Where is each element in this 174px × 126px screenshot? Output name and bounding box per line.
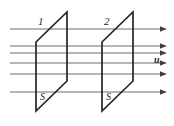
surface-two-area-label: S <box>106 92 111 102</box>
physics-flux-diagram: 1 2 S S u <box>0 0 174 126</box>
flow-line-group <box>10 29 166 92</box>
velocity-vector-label: u <box>154 55 160 65</box>
surface-group <box>36 12 133 111</box>
surface-one-index-label: 1 <box>38 16 44 27</box>
surface-one-area-label: S <box>40 92 45 102</box>
diagram-canvas <box>0 0 174 126</box>
surface-two-index-label: 2 <box>104 16 110 27</box>
